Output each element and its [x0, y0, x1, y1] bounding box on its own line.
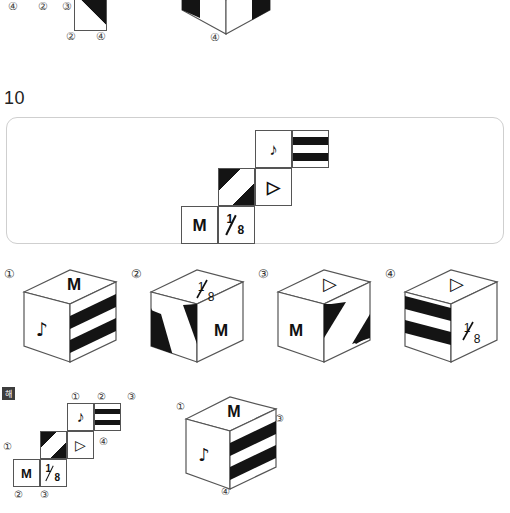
explain-letter-m-glyph: M [14, 460, 39, 486]
option-4-number: ④ [383, 267, 397, 281]
option-1[interactable]: ① M ♪ [0, 262, 127, 374]
explain-net-label-top-2: ② [94, 390, 108, 404]
remnant-black-corner [75, 0, 106, 30]
svg-text:M: M [289, 321, 303, 340]
explain-net-face-m: M [13, 459, 40, 487]
remnant-label-3: ② [66, 30, 76, 43]
explanation-cube: M ♪ [182, 401, 282, 497]
explain-net-label-left: ① [0, 440, 14, 454]
option-3[interactable]: ③ ▷ M [254, 262, 381, 374]
explanation-cube-group: ① ② ③ ④ M ♪ [155, 385, 315, 513]
explain-net-label-top-1: ① [68, 390, 82, 404]
svg-text:8: 8 [474, 332, 481, 346]
remnant-label-4: ④ [96, 30, 106, 43]
remnant-net-cell-b [74, 0, 107, 31]
option-4[interactable]: ④ ▷ 1 8 [381, 262, 510, 374]
svg-text:M: M [227, 403, 240, 420]
remnant-label-0: ④ [8, 0, 18, 13]
options-row: ① M ♪ ② [0, 262, 510, 377]
explain-net-face-note: ♪ [67, 403, 94, 431]
svg-text:M: M [214, 321, 228, 340]
option-2-cube: 1 8 M [145, 274, 249, 370]
svg-text:♪: ♪ [36, 318, 48, 340]
explain-net-label-bottom-2: ③ [37, 488, 51, 502]
question-panel [6, 117, 504, 244]
option-1-cube: M ♪ [18, 274, 122, 370]
remnant-label-1: ② [38, 0, 48, 13]
option-3-number: ③ [256, 267, 270, 281]
explain-net-face-triangle: ▷ [67, 431, 94, 459]
previous-question-remnant: ④ ② ③ ② ④ ④ [0, 0, 510, 55]
explain-net-label-mid: ④ [96, 435, 110, 449]
explain-net-face-diagonal [40, 431, 67, 459]
explanation-net: ① ② ③ ♪ ▷ ④ ① M 1 8 ② ③ [0, 380, 160, 513]
explain-net-label-top-3: ③ [124, 390, 138, 404]
option-4-cube: ▷ 1 8 [399, 274, 503, 370]
option-2[interactable]: ② 1 8 [127, 262, 254, 374]
explain-triangle-glyph: ▷ [68, 432, 93, 458]
explain-music-note-glyph: ♪ [68, 404, 93, 430]
option-3-cube: ▷ M [272, 274, 376, 370]
explain-net-face-fraction: 1 8 [40, 459, 67, 487]
remnant-cube [178, 0, 274, 34]
option-1-number: ① [2, 267, 16, 281]
svg-text:▷: ▷ [323, 273, 337, 294]
explain-fraction-denominator: 8 [55, 473, 61, 483]
question-number: 10 [4, 88, 25, 109]
option-2-number: ② [129, 267, 143, 281]
remnant-label-5: ④ [210, 31, 220, 44]
explain-fraction-glyph: 1 8 [41, 460, 66, 486]
remnant-label-2: ③ [62, 0, 72, 13]
svg-text:▷: ▷ [450, 273, 464, 294]
explain-net-label-bottom-1: ② [11, 488, 25, 502]
svg-text:8: 8 [208, 290, 215, 304]
explain-net-face-stripes [94, 403, 121, 431]
svg-text:♪: ♪ [198, 444, 210, 465]
svg-text:M: M [67, 275, 81, 294]
